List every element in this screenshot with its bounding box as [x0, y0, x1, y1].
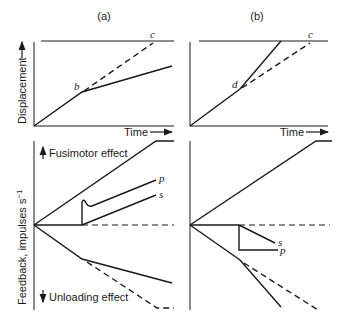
curve-p-b: p [279, 244, 286, 256]
curve-s-a: s [159, 188, 163, 200]
panel-a-feedback [34, 141, 174, 310]
point-b: b [74, 80, 80, 92]
panel-b-feedback [190, 141, 332, 310]
time-label-b: Time [280, 126, 304, 138]
curve-p-a: p [158, 172, 165, 184]
time-label-a: Time [124, 126, 148, 138]
feedback-label: Feedback, impulses s−1 [15, 189, 28, 305]
panel-a-displacement [34, 41, 174, 126]
diagram: (a) (b) Time Time Displacement Feedback,… [0, 0, 346, 322]
point-c-a: c [150, 28, 155, 40]
panel-b-label: (b) [250, 10, 263, 22]
unloading-effect-label: Unloading effect [49, 291, 128, 303]
displacement-label: Displacement [16, 57, 28, 124]
panel-b-displacement [190, 41, 328, 126]
point-d: d [232, 78, 238, 90]
fusimotor-effect-label: Fusimotor effect [49, 147, 128, 159]
point-c-b: c [308, 28, 313, 40]
panel-a-label: (a) [97, 10, 110, 22]
